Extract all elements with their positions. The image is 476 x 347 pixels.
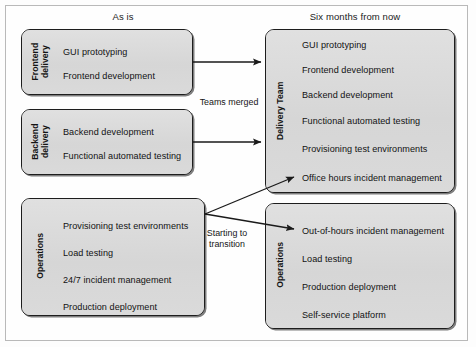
box-label-operations-future: Operations [276, 232, 286, 298]
edge-label-line-1: Teams merged [200, 97, 259, 107]
label-line-2: delivery [40, 125, 50, 158]
item-delivery-team-3: Backend development [302, 90, 393, 100]
item-frontend-2: Frontend development [63, 71, 155, 81]
label-line-1: Operations [275, 242, 285, 288]
edge-label-teams-merged: Teams merged [191, 97, 267, 108]
box-fill [266, 30, 454, 192]
item-delivery-team-1: GUI prototyping [302, 40, 366, 50]
item-operations-as-is-4: Production deployment [63, 302, 157, 312]
label-line-1: Operations [35, 233, 45, 279]
item-operations-as-is-3: 24/7 incident management [63, 275, 171, 285]
label-line-1: Backend [30, 124, 40, 160]
box-label-delivery-team: Delivery Team [276, 78, 286, 144]
edge-label-starting-to-transition: Starting to transition [193, 228, 261, 250]
edge-label-line-2: transition [209, 239, 245, 249]
box-delivery-team[interactable] [265, 29, 455, 193]
column-header-six-months: Six months from now [290, 11, 420, 22]
label-line-1: Frontend [30, 43, 40, 81]
item-backend-1: Backend development [63, 127, 154, 137]
item-frontend-1: GUI prototyping [63, 47, 127, 57]
diagram-canvas: As is Six months from now Frontend deliv… [0, 0, 476, 347]
edge-label-line-1: Starting to [207, 228, 247, 238]
item-backend-2: Functional automated testing [63, 151, 181, 161]
label-line-1: Delivery Team [275, 82, 285, 140]
item-operations-future-4: Self-service platform [302, 310, 386, 320]
box-label-operations-as-is: Operations [36, 223, 46, 289]
item-operations-future-2: Load testing [302, 254, 352, 264]
label-line-2: delivery [40, 45, 50, 78]
item-operations-future-3: Production deployment [302, 282, 396, 292]
item-operations-future-1: Out-of-hours incident management [302, 226, 444, 236]
item-delivery-team-5: Provisioning test environments [302, 144, 427, 154]
item-operations-as-is-2: Load testing [63, 248, 113, 258]
column-header-as-is: As is [63, 11, 183, 22]
box-label-frontend-delivery: Frontend delivery [31, 29, 50, 95]
item-operations-as-is-1: Provisioning test environments [63, 221, 188, 231]
item-delivery-team-2: Frontend development [302, 65, 394, 75]
box-label-backend-delivery: Backend delivery [31, 109, 50, 175]
item-delivery-team-6: Office hours incident management [302, 173, 442, 183]
item-delivery-team-4: Functional automated testing [302, 116, 420, 126]
